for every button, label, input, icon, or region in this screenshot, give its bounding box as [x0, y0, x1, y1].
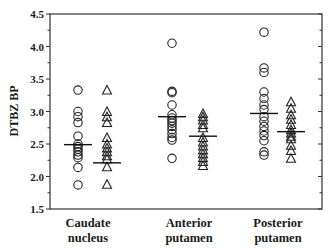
- y-tick-label: 1.5: [30, 203, 44, 215]
- y-tick-label: 2.0: [30, 171, 44, 183]
- mean-lines: [64, 113, 305, 162]
- circle-marker: [74, 86, 82, 94]
- category-label-line1: Posterior: [253, 216, 303, 230]
- plot-frame: [50, 14, 322, 209]
- circle-marker: [168, 39, 176, 47]
- category-label-line2: nucleus: [68, 231, 108, 245]
- dot-plot-chart: 1.52.02.53.03.54.04.5 CaudatenucleusAnte…: [0, 0, 329, 248]
- triangle-marker: [199, 123, 208, 132]
- circle-marker: [74, 163, 82, 171]
- circle-marker: [168, 154, 176, 162]
- triangle-marker: [287, 154, 296, 163]
- y-tick-label: 4.0: [30, 41, 44, 53]
- circle-marker: [260, 137, 268, 145]
- triangle-marker: [103, 180, 112, 189]
- circle-marker: [74, 132, 82, 140]
- circle-marker: [74, 181, 82, 189]
- plot-border: [50, 14, 322, 209]
- x-axis-category-labels: CaudatenucleusAnteriorputamenPosteriorpu…: [65, 216, 303, 245]
- data-points: [74, 28, 296, 189]
- circle-marker: [168, 101, 176, 109]
- category-label-line1: Anterior: [166, 216, 213, 230]
- y-axis-title: DTBZ BP: [7, 85, 21, 136]
- circle-marker: [260, 28, 268, 36]
- triangle-marker: [103, 86, 112, 95]
- y-tick-label: 4.5: [30, 8, 44, 20]
- category-label-line2: putamen: [165, 231, 212, 245]
- category-label-line1: Caudate: [65, 216, 111, 230]
- y-tick-label: 3.5: [30, 73, 44, 85]
- y-tick-label: 3.0: [30, 106, 44, 118]
- category-label-line2: putamen: [254, 231, 301, 245]
- triangle-marker: [287, 132, 296, 141]
- circle-marker: [74, 118, 82, 126]
- y-tick-label: 2.5: [30, 138, 44, 150]
